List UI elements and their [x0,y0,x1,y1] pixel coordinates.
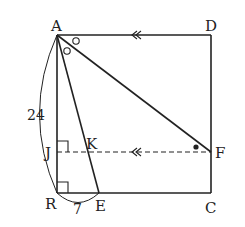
label-C: C [205,199,216,217]
geometry-diagram: A D R C E F J K 24 7 [0,0,245,227]
measure-BE: 7 [73,201,82,217]
segment-AF [57,35,211,152]
label-E: E [95,197,106,215]
right-angle-mark-J [57,141,68,152]
measure-AB: 24 [27,107,45,123]
label-A: A [50,17,62,35]
label-F: F [215,144,225,162]
angle-dot-F-icon [193,144,198,149]
right-angle-mark-B [57,182,68,193]
segment-AE [57,35,99,193]
label-K: K [86,135,98,153]
label-B: R [45,195,57,213]
label-J: J [43,144,51,162]
angle-mark-circle-1-icon [73,38,79,44]
angle-mark-circle-2-icon [64,48,70,54]
label-D: D [205,17,217,35]
